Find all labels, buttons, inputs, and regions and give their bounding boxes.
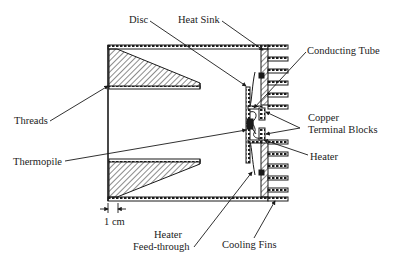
label-heater: Heater bbox=[310, 151, 338, 163]
leader-copper-2 bbox=[266, 128, 300, 134]
label-copper: Copper bbox=[308, 112, 339, 124]
thermopile bbox=[247, 119, 253, 129]
leader-threads bbox=[50, 86, 108, 121]
label-thermopile: Thermopile bbox=[13, 156, 62, 168]
label-disc: Disc bbox=[129, 14, 148, 26]
leader-lines bbox=[50, 21, 308, 247]
label-scale: 1 cm bbox=[104, 216, 125, 228]
leader-cooling-fins bbox=[254, 201, 275, 238]
scale-bar bbox=[100, 203, 126, 213]
label-heater-feedthrough-1: Heater bbox=[148, 229, 188, 241]
leader-copper-1 bbox=[266, 112, 300, 128]
label-heater-feedthrough-2: Feed-through bbox=[133, 241, 190, 253]
leader-thermopile bbox=[65, 130, 246, 161]
label-terminal-blocks: Terminal Blocks bbox=[308, 124, 378, 136]
label-cooling-fins: Cooling Fins bbox=[222, 239, 277, 251]
label-conducting-tube: Conducting Tube bbox=[307, 45, 380, 57]
cooling-fins bbox=[268, 45, 288, 201]
threads-upper bbox=[109, 49, 200, 88]
leader-heater-feedthrough bbox=[194, 172, 252, 247]
threads-lower bbox=[109, 160, 200, 197]
label-heat-sink: Heat Sink bbox=[178, 14, 220, 26]
label-threads: Threads bbox=[14, 115, 48, 127]
housing-bottom-wall bbox=[108, 197, 268, 201]
